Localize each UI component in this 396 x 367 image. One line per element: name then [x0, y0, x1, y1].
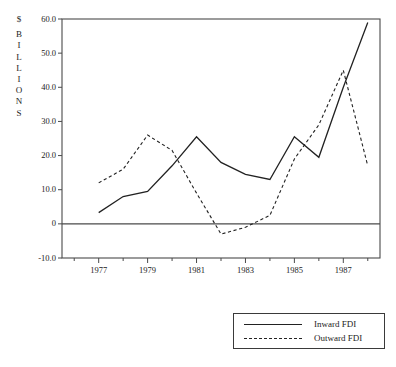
- series-layer: [99, 22, 368, 234]
- legend-label: Inward FDI: [314, 318, 356, 331]
- x-tick-label: 1983: [225, 266, 265, 275]
- y-tick-label: 40.0: [20, 83, 56, 92]
- y-tick-label: 0: [20, 219, 56, 228]
- fdi-line-chart: $ B I L L I O N S -10.0010.020.030.040.0…: [0, 0, 396, 367]
- x-tick-label: 1985: [274, 266, 314, 275]
- x-tick-label: 1987: [323, 266, 363, 275]
- y-tick-label: 20.0: [20, 151, 56, 160]
- y-axis-title-char: N: [8, 96, 30, 107]
- chart-legend: Inward FDI Outward FDI: [233, 313, 385, 349]
- series-line-outward-fdi: [99, 70, 368, 234]
- y-axis-title: $ B I L L I O N S: [8, 14, 30, 119]
- x-tick-label: 1981: [177, 266, 217, 275]
- plot-area: [0, 0, 396, 367]
- x-tick-label: 1977: [79, 266, 119, 275]
- y-tick-label: 60.0: [20, 15, 56, 24]
- legend-label: Outward FDI: [314, 332, 362, 345]
- y-tick-label: 30.0: [20, 117, 56, 126]
- y-tick-label: -10.0: [20, 254, 56, 263]
- legend-line-sample-solid: [244, 324, 302, 325]
- y-axis-title-char: B: [8, 29, 30, 40]
- y-tick-label: 50.0: [20, 49, 56, 58]
- y-axis-title-char: L: [8, 63, 30, 74]
- x-tick-label: 1979: [128, 266, 168, 275]
- y-tick-label: 10.0: [20, 185, 56, 194]
- series-line-inward-fdi: [99, 22, 368, 212]
- legend-item-inward-fdi: Inward FDI: [234, 317, 384, 332]
- axes-layer: [58, 19, 380, 263]
- plot-frame: [62, 19, 380, 258]
- legend-item-outward-fdi: Outward FDI: [234, 331, 384, 346]
- legend-line-sample-dashed: [244, 338, 302, 339]
